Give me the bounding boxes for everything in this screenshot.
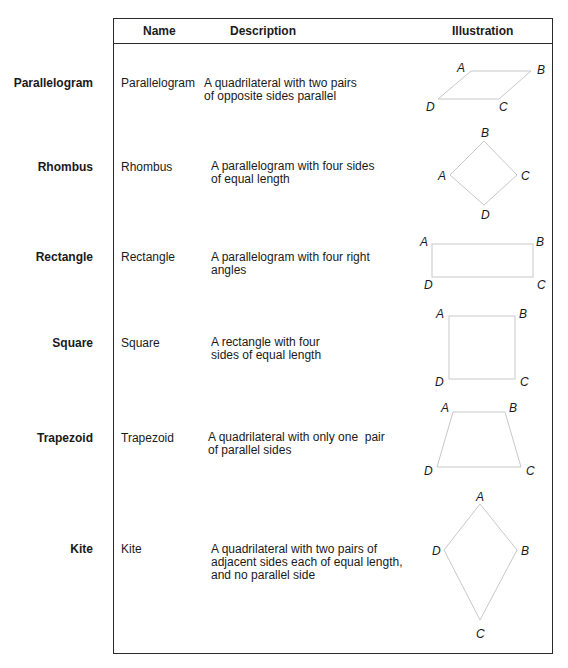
vertex-label: B — [509, 401, 517, 415]
kite-shape — [444, 504, 517, 620]
vertex-label: C — [537, 278, 546, 292]
vertex-label: A — [435, 307, 444, 321]
vertex-label: C — [476, 627, 485, 641]
vertex-label: A — [440, 401, 449, 415]
vertex-label: D — [481, 208, 490, 222]
square-shape — [449, 316, 515, 379]
vertex-label: C — [520, 375, 529, 389]
vertex-label: C — [521, 169, 530, 183]
vertex-label: C — [526, 464, 535, 478]
vertex-label: B — [537, 63, 545, 77]
vertex-label: B — [521, 544, 529, 558]
vertex-label: A — [456, 61, 465, 75]
vertex-label: B — [536, 235, 544, 249]
vertex-label: A — [475, 490, 484, 504]
vertex-label: D — [426, 100, 435, 114]
vertex-label: B — [481, 126, 489, 140]
illustrations: A B C D B A C D A B D C A B D C A B D C … — [0, 0, 568, 668]
vertex-label: A — [437, 169, 446, 183]
vertex-label: D — [435, 375, 444, 389]
rhombus-shape — [450, 141, 517, 205]
vertex-label: B — [519, 307, 527, 321]
vertex-label: A — [419, 235, 428, 249]
trapezoid-shape — [437, 412, 521, 467]
vertex-label: C — [499, 100, 508, 114]
vertex-label: D — [424, 278, 433, 292]
vertex-label: D — [424, 464, 433, 478]
rectangle-shape — [432, 244, 533, 277]
parallelogram-shape — [438, 71, 531, 99]
vertex-label: D — [432, 544, 441, 558]
